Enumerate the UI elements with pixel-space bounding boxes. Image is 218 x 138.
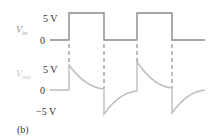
vout-waveform [50, 62, 205, 114]
vout-zero-label: 0 [40, 85, 45, 96]
figure-caption: (b) [17, 124, 29, 136]
vin-label: Vin [16, 24, 28, 37]
vin-5v-label: 5 V [43, 13, 58, 24]
vout-5v-label: 5 V [43, 64, 58, 75]
vout-neg5v-label: −5 V [36, 106, 57, 117]
vout-label: Vout [16, 68, 32, 81]
vin-zero-label: 0 [40, 35, 45, 46]
vin-square-wave [50, 13, 205, 40]
rc-differentiator-waveforms: 5 V Vin 0 5 V Vout 0 −5 V (b) [0, 0, 218, 138]
